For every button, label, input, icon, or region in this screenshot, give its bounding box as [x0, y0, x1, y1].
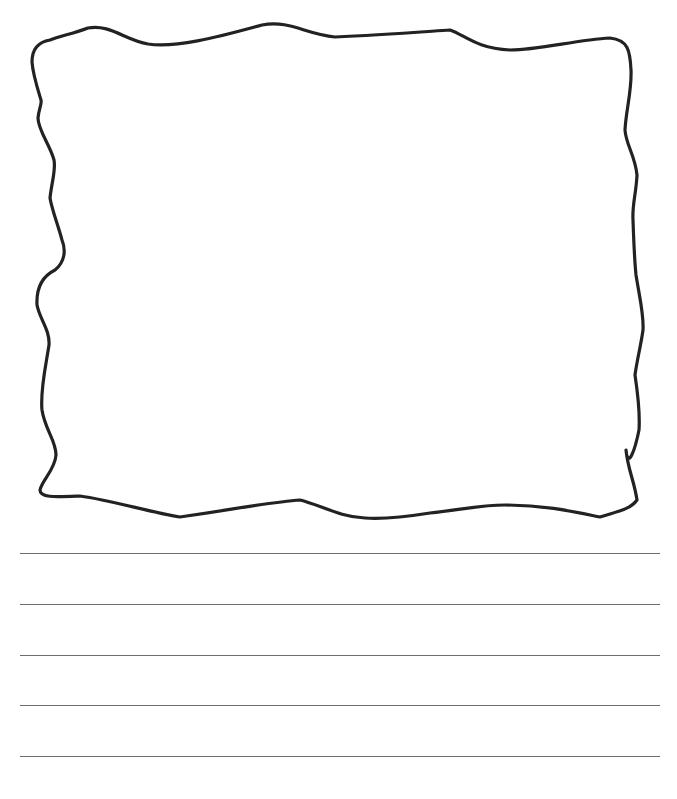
wavy-frame-border	[32, 24, 643, 518]
drawing-frame	[0, 0, 677, 799]
writing-line-2	[20, 604, 660, 605]
writing-line-4	[20, 705, 660, 706]
writing-line-3	[20, 655, 660, 656]
writing-line-5	[20, 756, 660, 757]
writing-line-1	[20, 553, 660, 554]
